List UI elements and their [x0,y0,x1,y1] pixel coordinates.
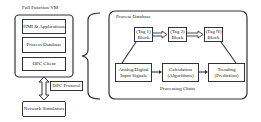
tag-line2: Block [208,35,220,41]
analog-digital-input-box: Analog/Digital Input Signals [115,63,152,82]
tag-2-block: (Tag 2) Block [168,27,187,42]
opc-protocol-label: OPC Protocol [50,81,83,91]
hmi-applications-box: HMI & Applications [22,19,66,34]
opc-client-box: OPC Client [22,57,66,71]
processing-chain-label: Processing Chain [160,86,195,92]
process-db-title: Process Database [116,14,151,20]
network-simulators-box: Network Simulators [22,101,66,117]
chain-line2: (Algorithms) [167,73,193,79]
calculation-box: Calculation (Algorithms) [162,63,199,82]
tag-line2: Block [138,35,150,41]
trending-box: Trending (Prediction) [208,63,245,82]
chain-line2: (Prediction) [215,73,239,79]
process-database-box: Process Database [22,37,66,53]
tag-n-block: (Tag N) Block [204,27,223,42]
vm-title: Full Function VM [22,5,58,11]
chain-line2: Input Signals [120,73,147,79]
tag-line2: Block [172,35,184,41]
tag-1-block: (Tag 1) Block [134,27,153,42]
